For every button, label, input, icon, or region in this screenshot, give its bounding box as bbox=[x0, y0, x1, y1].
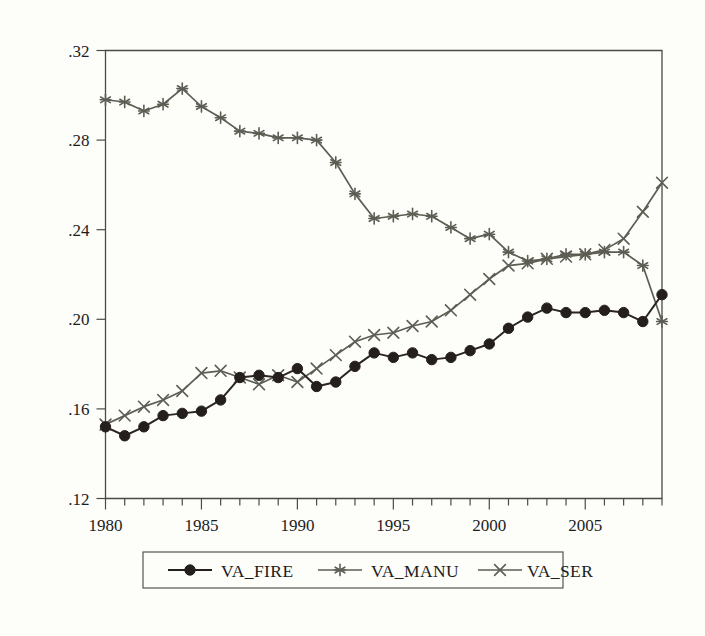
data-point-marker bbox=[292, 132, 303, 143]
plot-frame bbox=[106, 51, 663, 499]
x-axis-tick-labels: 198019851990199520002005 bbox=[89, 516, 603, 535]
x-tick-label: 1980 bbox=[89, 516, 123, 535]
series-group-va-ser bbox=[100, 177, 667, 430]
x-tick-label: 1995 bbox=[376, 516, 410, 535]
data-point-marker bbox=[465, 233, 476, 244]
legend-label: VA_MANU bbox=[371, 561, 459, 581]
series-path-va-manu bbox=[106, 89, 663, 322]
x-tick-label: 2005 bbox=[568, 516, 602, 535]
data-point-marker bbox=[292, 377, 303, 388]
data-point-marker bbox=[215, 395, 225, 405]
y-tick-label: .20 bbox=[68, 310, 89, 329]
data-point-marker bbox=[618, 307, 628, 317]
data-point-marker bbox=[446, 352, 456, 362]
y-tick-label: .12 bbox=[68, 490, 89, 509]
data-point-marker bbox=[158, 395, 169, 406]
data-point-marker bbox=[158, 410, 168, 420]
data-point-marker bbox=[446, 305, 457, 316]
data-point-marker bbox=[657, 316, 668, 327]
legend: VA_FIREVA_MANUVA_SER bbox=[143, 552, 593, 588]
data-point-marker bbox=[292, 363, 302, 373]
data-point-marker bbox=[311, 363, 322, 374]
x-tick-label: 2000 bbox=[472, 516, 506, 535]
y-tick-label: .16 bbox=[68, 400, 89, 419]
data-point-marker bbox=[177, 386, 188, 397]
data-point-marker bbox=[273, 132, 284, 143]
y-tick-label: .32 bbox=[68, 42, 89, 61]
data-point-marker bbox=[119, 96, 130, 107]
legend-label: VA_SER bbox=[527, 561, 593, 581]
data-point-marker bbox=[138, 401, 149, 412]
data-point-marker bbox=[407, 321, 418, 332]
y-tick-label: .28 bbox=[68, 131, 89, 150]
legend-label: VA_FIRE bbox=[221, 561, 294, 581]
y-axis-tick-labels: .12.16.20.24.28.32 bbox=[68, 42, 90, 509]
data-point-marker bbox=[100, 94, 111, 105]
series-path-va-ser bbox=[106, 183, 663, 425]
data-point-marker bbox=[177, 408, 187, 418]
data-point-marker bbox=[542, 303, 552, 313]
data-point-marker bbox=[561, 307, 571, 317]
x-tick-label: 1990 bbox=[280, 516, 314, 535]
data-point-marker bbox=[350, 336, 361, 347]
data-point-marker bbox=[119, 410, 130, 421]
x-axis-ticks bbox=[106, 499, 663, 510]
data-point-marker bbox=[618, 233, 629, 244]
data-point-marker bbox=[465, 345, 475, 355]
x-tick-label: 1985 bbox=[184, 516, 218, 535]
data-point-marker bbox=[235, 372, 245, 382]
data-point-marker bbox=[273, 372, 283, 382]
data-point-marker bbox=[522, 255, 533, 266]
data-point-marker bbox=[638, 316, 648, 326]
line-chart-figure: .12.16.20.24.28.32 198019851990199520002… bbox=[0, 0, 705, 636]
data-point-marker bbox=[388, 352, 398, 362]
data-point-marker bbox=[407, 348, 417, 358]
y-tick-label: .24 bbox=[68, 221, 90, 240]
data-point-marker bbox=[196, 406, 206, 416]
series-group-va-fire bbox=[100, 289, 667, 441]
data-point-marker bbox=[484, 274, 495, 285]
series-group-va-manu bbox=[100, 83, 667, 327]
data-point-marker bbox=[331, 377, 341, 387]
data-point-marker bbox=[254, 370, 264, 380]
data-point-marker bbox=[235, 126, 246, 137]
data-point-marker bbox=[407, 208, 418, 219]
data-point-marker bbox=[100, 422, 110, 432]
data-point-marker bbox=[311, 381, 321, 391]
data-point-marker bbox=[119, 431, 129, 441]
data-point-marker bbox=[503, 323, 513, 333]
data-point-marker bbox=[599, 305, 609, 315]
data-point-marker bbox=[484, 339, 494, 349]
data-point-marker bbox=[426, 316, 437, 327]
data-point-marker bbox=[426, 211, 437, 222]
data-point-marker bbox=[215, 112, 226, 123]
data-point-marker bbox=[465, 289, 476, 300]
data-point-marker bbox=[330, 350, 341, 361]
data-point-marker bbox=[561, 249, 572, 260]
data-point-marker bbox=[446, 222, 457, 233]
data-point-marker bbox=[350, 361, 360, 371]
plot-canvas: .12.16.20.24.28.32 198019851990199520002… bbox=[0, 0, 705, 636]
data-point-marker bbox=[139, 422, 149, 432]
data-point-marker bbox=[580, 307, 590, 317]
series-path-va-fire bbox=[106, 295, 663, 436]
data-point-marker bbox=[185, 565, 195, 575]
data-point-marker bbox=[618, 247, 629, 258]
data-point-marker bbox=[637, 206, 648, 217]
data-point-marker bbox=[657, 289, 667, 299]
data-point-marker bbox=[254, 128, 265, 139]
data-point-marker bbox=[388, 211, 399, 222]
data-point-marker bbox=[522, 312, 532, 322]
data-point-marker bbox=[637, 260, 648, 271]
data-point-marker bbox=[139, 105, 150, 116]
data-point-marker bbox=[369, 348, 379, 358]
data-point-marker bbox=[427, 354, 437, 364]
